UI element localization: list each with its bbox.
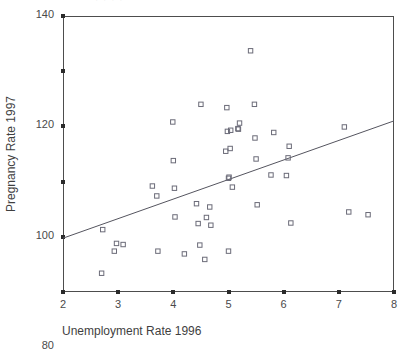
data-point	[182, 252, 186, 256]
data-point	[228, 146, 232, 150]
y-tick-label: 80	[42, 339, 54, 351]
data-point	[254, 157, 258, 161]
data-point	[199, 102, 203, 106]
data-point	[224, 149, 228, 153]
data-point	[225, 105, 229, 109]
data-point	[101, 227, 105, 231]
y-tick-label: 140	[36, 8, 54, 20]
data-point	[287, 144, 291, 148]
data-point	[255, 203, 259, 207]
x-tick-label: 2	[60, 298, 66, 310]
y-axis-title: Pregnancy Rate 1997	[2, 16, 20, 292]
data-point	[366, 213, 370, 217]
data-point	[114, 241, 118, 245]
data-point	[150, 184, 154, 188]
data-point	[289, 221, 293, 225]
data-point	[252, 102, 256, 106]
data-point	[171, 120, 175, 124]
data-point	[208, 205, 212, 209]
data-point	[112, 249, 116, 253]
data-point	[347, 210, 351, 214]
x-tick-label: 7	[336, 298, 342, 310]
data-point	[269, 173, 273, 177]
data-point	[155, 194, 159, 198]
plot-area: 406080100120140 2345678	[63, 16, 394, 292]
scatter-plot-figure: · · · · Pregnancy Rate 1997 Unemployment…	[0, 0, 415, 353]
data-point	[194, 201, 198, 205]
data-point	[237, 121, 241, 125]
data-point	[173, 215, 177, 219]
data-point	[204, 215, 208, 219]
data-point	[121, 242, 125, 246]
data-point	[203, 257, 207, 261]
data-point-group	[99, 49, 370, 276]
data-point	[99, 271, 103, 275]
x-tick-label: 8	[391, 298, 397, 310]
y-tick-label: 100	[36, 229, 54, 241]
data-point	[253, 136, 257, 140]
data-point	[272, 130, 276, 134]
y-axis-title-text: Pregnancy Rate 1997	[4, 96, 18, 212]
data-point	[226, 249, 230, 253]
data-layer	[63, 16, 394, 292]
x-tick-label: 5	[225, 298, 231, 310]
data-point	[284, 173, 288, 177]
data-point	[172, 186, 176, 190]
x-tick-label: 3	[115, 298, 121, 310]
data-point	[156, 249, 160, 253]
x-tick-label: 4	[170, 298, 176, 310]
x-tick-label: 6	[281, 298, 287, 310]
data-point	[342, 125, 346, 129]
data-point	[209, 223, 213, 227]
cropped-title-text: · · · ·	[95, 0, 315, 4]
data-point	[248, 49, 252, 53]
data-point	[171, 158, 175, 162]
data-point	[198, 243, 202, 247]
data-point	[230, 185, 234, 189]
x-axis-title: Unemployment Rate 1996	[62, 324, 201, 338]
data-point	[196, 221, 200, 225]
y-tick-label: 120	[36, 118, 54, 130]
